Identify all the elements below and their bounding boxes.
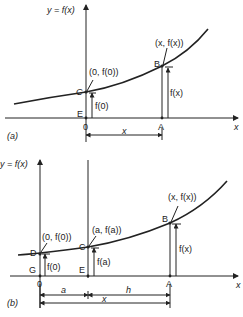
dimension-label-h-b: h: [126, 285, 131, 295]
coord-b-b: (x, f(x)): [168, 192, 197, 202]
exponential-function-diagram: y = f(x) x 0 (0, f(0)) C E A (x, f(x)) B…: [0, 0, 243, 317]
dimension-label-x-b: x: [101, 294, 107, 304]
coord-c-b: (a, f(a)): [92, 225, 122, 235]
label-g-b: G: [29, 265, 36, 275]
label-b-b: B: [162, 214, 168, 224]
leader-c-a: [87, 80, 93, 91]
leader-d-b: [41, 243, 47, 252]
point-d-b: [38, 252, 41, 255]
panel-tag-a: (a): [7, 131, 18, 141]
point-b-b: [168, 221, 171, 224]
height-label-f0-a: f(0): [95, 101, 109, 111]
point-c-b: [86, 245, 89, 248]
panel-a: y = f(x) x 0 (0, f(0)) C E A (x, f(x)) B…: [5, 5, 239, 142]
origin-label-a: 0: [83, 122, 88, 132]
label-e-b: E: [79, 265, 85, 275]
point-a-b: [169, 275, 172, 278]
height-label-fx-b: f(x): [179, 244, 192, 254]
label-b-a: B: [154, 59, 160, 69]
coord-c-a: (0, f(0)): [89, 67, 119, 77]
origin-label-b: 0: [37, 279, 42, 289]
point-a-a: [161, 117, 164, 120]
label-c-a: C: [76, 87, 83, 97]
coord-b-a: (x, f(x)): [155, 38, 184, 48]
coord-d-b: (0, f(0)): [42, 232, 72, 242]
point-g-b: [39, 275, 42, 278]
y-axis-label-a: y = f(x): [46, 5, 75, 15]
dimension-label-a-b: a: [61, 285, 66, 295]
point-c-a: [84, 90, 87, 93]
height-label-fa-b: f(a): [97, 257, 111, 267]
x-axis-label-a: x: [233, 122, 239, 132]
label-c-b: C: [79, 242, 86, 252]
point-e-b: [87, 275, 90, 278]
panel-b: y = f(x) x 0 (0, f(0)) D (a, f(a)) C (x,…: [0, 159, 241, 308]
y-axis-label-b: y = f(x): [0, 159, 28, 169]
leader-c-b: [89, 236, 96, 246]
x-axis-label-b: x: [235, 280, 241, 290]
height-label-fx-a: f(x): [170, 88, 183, 98]
label-a-a: A: [158, 122, 164, 132]
dimension-label-x-a: x: [121, 126, 127, 136]
point-b-a: [160, 64, 163, 67]
label-a-b: A: [166, 279, 172, 289]
panel-tag-b: (b): [7, 298, 18, 308]
label-e-a: E: [77, 109, 83, 119]
point-e-a: [85, 117, 88, 120]
label-d-b: D: [30, 248, 37, 258]
leader-b-a: [163, 48, 167, 65]
height-label-f0-b: f(0): [47, 262, 61, 272]
